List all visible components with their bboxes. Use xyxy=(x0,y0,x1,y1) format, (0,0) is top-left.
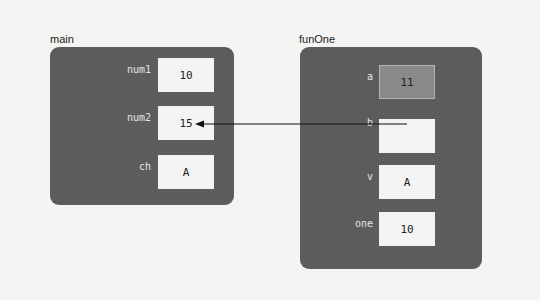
reference-arrow xyxy=(0,0,540,300)
